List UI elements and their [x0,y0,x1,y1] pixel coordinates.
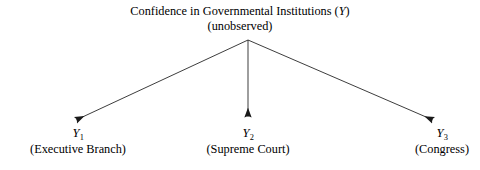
indicator-symbol-y2-subscript: 2 [250,133,254,142]
indicator-symbol-y1-letter: Y [72,126,79,140]
arrow-to-y1 [76,40,248,120]
latent-title-prefix: Confidence in Governmental Institutions … [130,4,338,18]
latent-variable-node: Confidence in Governmental Institutions … [0,4,480,33]
indicator-symbol-y1: Y1 [8,126,148,141]
indicator-symbol-y3-letter: Y [436,126,443,140]
latent-title-suffix: ) [346,4,350,18]
indicator-node-y1: Y1 (Executive Branch) [8,126,148,156]
indicator-symbol-y3: Y3 [372,126,480,141]
latent-variable-title: Confidence in Governmental Institutions … [0,4,480,19]
latent-variable-status: (unobserved) [0,19,480,34]
indicator-symbol-y3-subscript: 3 [444,133,448,142]
path-diagram: Confidence in Governmental Institutions … [0,0,480,170]
indicator-symbol-y1-subscript: 1 [80,133,84,142]
indicator-label-y2: (Supreme Court) [178,142,318,157]
indicator-node-y3: Y3 (Congress) [372,126,480,156]
indicator-label-y3: (Congress) [372,142,480,157]
indicator-label-y1: (Executive Branch) [8,142,148,157]
latent-title-variable: Y [339,4,346,18]
indicator-symbol-y2: Y2 [178,126,318,141]
arrow-to-y3 [248,40,433,120]
indicator-symbol-y2-letter: Y [242,126,249,140]
indicator-node-y2: Y2 (Supreme Court) [178,126,318,156]
